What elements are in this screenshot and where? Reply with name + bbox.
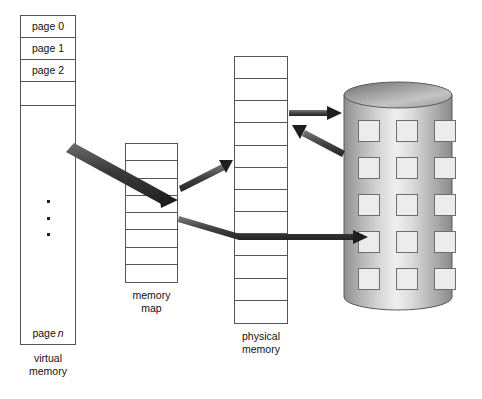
disk-block: [396, 157, 418, 179]
virtual-memory-cell: page 0: [21, 16, 75, 38]
physical-memory-caption-line1: physical: [228, 330, 294, 343]
physical-memory-row: [235, 101, 287, 123]
physical-memory-row: [235, 256, 287, 278]
virtual-memory-cell: [21, 130, 75, 154]
virtual-memory-cell: [21, 250, 75, 274]
physical-memory-caption: physical memory: [228, 330, 294, 356]
disk-block: [396, 231, 418, 253]
disk-block: [396, 268, 418, 290]
disk-block: [434, 268, 456, 290]
physical-memory-column: [234, 56, 288, 324]
virtual-memory-cell: [21, 82, 75, 106]
disk-block: [434, 194, 456, 216]
disk-block: [396, 120, 418, 142]
memory-map-caption-line1: memory: [120, 289, 183, 302]
virtual-memory-cell: [21, 154, 75, 178]
memory-map-row: [126, 196, 177, 213]
virtual-memory-caption-line1: virtual: [20, 352, 76, 365]
ellipsis-dot: [47, 200, 50, 203]
virtual-memory-cell-label: page 0: [32, 21, 64, 32]
disk-block: [434, 157, 456, 179]
physical-memory-row: [235, 123, 287, 145]
disk-to-physical-arrow: [292, 125, 345, 157]
virtual-memory-cell: page 1: [21, 38, 75, 60]
physical-memory-row: [235, 57, 287, 79]
disk-cylinder-top: [344, 82, 452, 108]
virtual-memory-cell: page 2: [21, 60, 75, 82]
physical-memory-row: [235, 79, 287, 101]
virtual-memory-cell: [21, 178, 75, 202]
virtual-memory-cell-label: page 1: [32, 43, 64, 54]
ellipsis-dot: [47, 233, 50, 236]
physical-memory-row: [235, 212, 287, 234]
physical-memory-row: [235, 168, 287, 190]
disk-block: [358, 268, 380, 290]
virtual-memory-caption: virtual memory: [20, 352, 76, 378]
virtual-memory-cell: [21, 106, 75, 130]
virtual-memory-cell-label-italic: n: [56, 328, 64, 339]
disk-block: [358, 120, 380, 142]
memory-map-row: [126, 161, 177, 178]
memory-map-row: [126, 179, 177, 196]
memory-map-row: [126, 213, 177, 230]
virtual-memory-column: page 0page 1page 2page n: [20, 15, 76, 345]
memory-map-row: [126, 230, 177, 247]
disk-block: [358, 231, 380, 253]
disk-block: [358, 194, 380, 216]
disk-block: [396, 194, 418, 216]
memory-map-row: [126, 144, 177, 161]
memory-map-column: [125, 143, 178, 283]
virtual-memory-ellipsis: [46, 200, 50, 236]
virtual-memory-caption-line2: memory: [20, 365, 76, 378]
physical-memory-row: [235, 146, 287, 168]
physical-to-disk-arrow: [289, 106, 342, 120]
memory-map-row: [126, 265, 177, 282]
disk-block: [434, 231, 456, 253]
virtual-memory-cell-label: page 2: [32, 65, 64, 76]
physical-memory-row: [235, 190, 287, 212]
memory-map-row: [126, 248, 177, 265]
physical-memory-row: [235, 279, 287, 301]
disk-block: [358, 157, 380, 179]
memory-map-caption: memory map: [120, 289, 183, 315]
physical-memory-row: [235, 234, 287, 256]
virtual-memory-cell: [21, 298, 75, 322]
physical-memory-row: [235, 301, 287, 323]
map-to-physical-arrow: [179, 160, 233, 192]
virtual-memory-cell: page n: [21, 322, 75, 344]
physical-memory-caption-line2: memory: [228, 343, 294, 356]
virtual-memory-cell: [21, 274, 75, 298]
disk-block: [434, 120, 456, 142]
diagram-canvas: page 0page 1page 2page n virtual memory …: [0, 0, 482, 399]
ellipsis-dot: [47, 217, 50, 220]
virtual-memory-cell-label: page: [32, 328, 55, 339]
memory-map-caption-line2: map: [120, 302, 183, 315]
